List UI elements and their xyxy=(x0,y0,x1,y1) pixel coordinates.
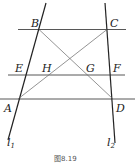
label-b: B xyxy=(30,17,39,30)
line-l1 xyxy=(8,3,46,140)
label-h: H xyxy=(41,62,52,75)
geometry-figure: B C E H G F A D l1 l2 图8.19 xyxy=(0,0,135,165)
label-c: C xyxy=(110,17,119,30)
label-d: D xyxy=(115,102,125,115)
label-l1: l1 xyxy=(7,136,15,150)
label-e: E xyxy=(14,62,23,75)
figure-caption: 图8.19 xyxy=(54,155,77,163)
label-g: G xyxy=(86,62,95,75)
label-f: F xyxy=(112,62,121,75)
label-a: A xyxy=(3,102,12,115)
